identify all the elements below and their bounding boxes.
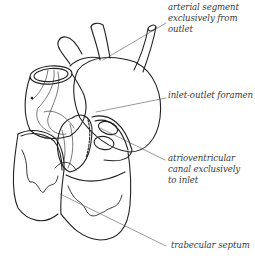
right-ventricle <box>55 152 131 240</box>
label-line: atrioventricular <box>168 153 240 164</box>
foramen-ring <box>58 115 93 172</box>
label-arterial-segment: arterial segment exclusively from outlet <box>168 2 239 35</box>
truncal-tube <box>25 64 86 138</box>
label-line: outlet <box>168 24 239 35</box>
label-line: arterial segment <box>168 2 239 13</box>
label-line: canal exclusively <box>168 164 240 175</box>
leader-av-canal <box>100 128 165 160</box>
av-canal <box>92 116 132 161</box>
middle-vessel <box>91 23 110 60</box>
right-vessel <box>134 24 157 72</box>
outlet-bulb <box>70 57 161 152</box>
leader-arterial <box>103 23 166 60</box>
label-trabecular-septum: trabecular septum <box>171 240 250 251</box>
label-line: trabecular septum <box>171 240 250 251</box>
label-line: to inlet <box>168 175 240 186</box>
left-ventricle <box>13 131 64 221</box>
label-atrioventricular-canal: atrioventricular canal exclusively to in… <box>168 153 240 186</box>
interventricular-septum <box>61 170 64 214</box>
leader-septum <box>60 194 166 246</box>
leader-lines <box>60 23 166 246</box>
heart-diagram <box>0 0 255 258</box>
label-line: exclusively from <box>168 13 239 24</box>
leader-foramen <box>96 98 166 112</box>
label-inlet-outlet-foramen: inlet-outlet foramen <box>168 90 253 101</box>
label-line: inlet-outlet foramen <box>168 90 253 101</box>
